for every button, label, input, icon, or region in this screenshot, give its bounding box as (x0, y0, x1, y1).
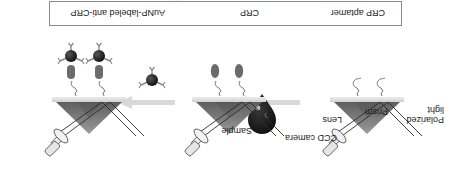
spr-assay-diagram: Polarized light Prism Lens CCD camera Sa… (0, 0, 462, 180)
ccd-camera-label: CCD camera (285, 133, 337, 143)
polarized-text: Polarized (406, 115, 444, 125)
sample-label: Sample (221, 126, 252, 136)
panel-1-aptamers (353, 78, 385, 96)
aunp-label: AuNP-labeled anti-CRP (70, 8, 165, 18)
lens-label: Lens (322, 115, 342, 125)
diagram-graphics (0, 0, 462, 180)
prism-label: Prism (365, 107, 388, 117)
arrow-2 (118, 96, 175, 109)
aptamer-label: CRP aptamer (331, 8, 385, 18)
legend-item-aunp: AuNP-labeled anti-CRP (70, 8, 165, 18)
panel-3-sandwich (58, 43, 112, 96)
legend-item-aptamer: CRP aptamer (331, 8, 385, 18)
light-text: light (406, 105, 444, 115)
crp-label: CRP (240, 8, 259, 18)
free-aunp-antibody (139, 67, 165, 88)
legend: CRP aptamer CRP AuNP-labeled anti-CRP (49, 1, 402, 26)
panel-2-bound-crp (211, 64, 245, 96)
polarized-light-label: Polarized light (406, 105, 444, 125)
legend-item-crp: CRP (240, 8, 259, 18)
